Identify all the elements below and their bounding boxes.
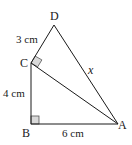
- length-label-cb: 4 cm: [3, 87, 25, 99]
- segment-ca: [31, 63, 118, 124]
- length-label-dc: 3 cm: [16, 33, 38, 45]
- label-a: A: [118, 118, 127, 132]
- geometry-diagram: D C B A 3 cm 4 cm 6 cm x: [0, 0, 132, 145]
- right-angle-marker-b: [31, 116, 39, 124]
- right-angle-marker-c: [31, 56, 42, 67]
- label-d: D: [50, 9, 59, 23]
- triangle-figure: D C B A 3 cm 4 cm 6 cm x: [0, 0, 132, 145]
- label-b: B: [22, 126, 30, 140]
- length-label-ba: 6 cm: [62, 127, 84, 139]
- segment-da: [54, 25, 118, 124]
- label-c: C: [20, 56, 28, 70]
- length-label-da: x: [87, 63, 94, 77]
